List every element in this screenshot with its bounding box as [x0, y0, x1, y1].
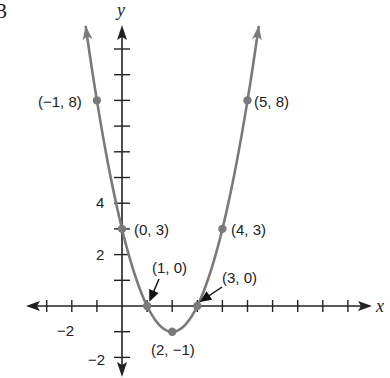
y-tick-label-neg2: −2: [88, 351, 105, 368]
y-tick-label-2: 2: [96, 246, 104, 263]
data-point: [93, 96, 101, 104]
point-label-5-8: (5, 8): [254, 93, 289, 110]
point-label-0-3: (0, 3): [134, 221, 169, 238]
callout-arrows: [150, 279, 222, 301]
y-axis-label: y: [115, 0, 125, 20]
data-point: [193, 302, 201, 310]
callout-1-0-head: [150, 290, 157, 300]
axis-arrowheads: [26, 25, 372, 377]
x-tick-label-neg2: −2: [57, 322, 74, 339]
point-label-3-0: (3, 0): [222, 269, 257, 286]
curve-arrowheads: [83, 26, 262, 41]
data-point: [143, 302, 151, 310]
data-point: [218, 225, 226, 233]
labeled-points: [93, 96, 252, 336]
data-point: [243, 96, 251, 104]
parabola-graph: 3 x y −2 4 2 −2 (−1, 8) (5, 8) (0, 3) (4…: [0, 0, 390, 378]
x-axis-label: x: [375, 296, 384, 316]
axis-ticks: [47, 49, 348, 357]
data-point: [168, 328, 176, 336]
data-point: [118, 225, 126, 233]
figure-number: 3: [0, 0, 7, 23]
axes: [28, 30, 368, 374]
point-label-2-neg1: (2, −1): [151, 341, 195, 358]
point-label-1-0: (1, 0): [152, 259, 187, 276]
point-label-4-3: (4, 3): [231, 221, 266, 238]
y-tick-label-4: 4: [96, 194, 104, 211]
point-label-neg1-8: (−1, 8): [38, 93, 82, 110]
